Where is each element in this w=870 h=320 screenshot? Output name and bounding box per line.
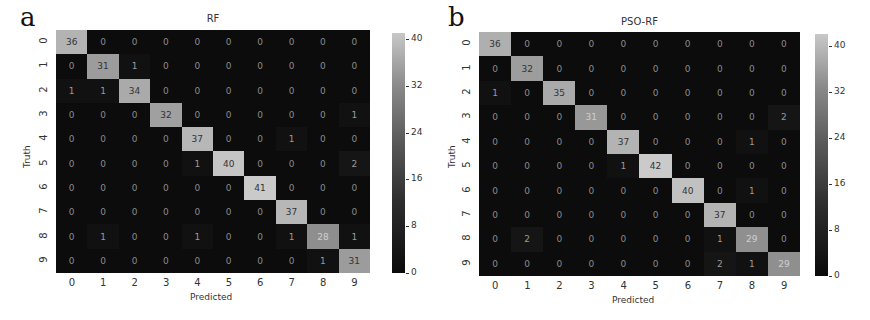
y-tick-label: 2	[461, 88, 472, 94]
matrix-cell: 0	[575, 32, 607, 56]
matrix-cell: 0	[639, 203, 671, 227]
matrix-cell: 0	[511, 130, 543, 154]
matrix-cell: 0	[479, 178, 511, 202]
x-tick-label: 3	[588, 280, 594, 291]
x-tick-label: 0	[492, 280, 498, 291]
matrix-cell: 0	[607, 227, 639, 251]
matrix-cell: 0	[736, 105, 768, 129]
x-tick-label: 5	[653, 280, 659, 291]
matrix-cell: 0	[543, 32, 575, 56]
y-tick-label: 3	[461, 113, 472, 119]
matrix-cell: 0	[543, 227, 575, 251]
colorbar-pso-rf	[815, 34, 828, 276]
matrix-cell: 0	[607, 32, 639, 56]
matrix-cell: 0	[479, 56, 511, 80]
matrix-cell: 29	[768, 252, 800, 276]
y-tick-label: 8	[461, 235, 472, 241]
matrix-cell: 0	[543, 56, 575, 80]
matrix-cell: 0	[575, 154, 607, 178]
matrix-cell: 0	[704, 130, 736, 154]
y-tick-label: 0	[461, 40, 472, 46]
matrix-cell: 0	[575, 203, 607, 227]
y-axis-label-pso-rf: Truth	[447, 145, 457, 168]
matrix-cell: 0	[511, 32, 543, 56]
matrix-cell: 0	[607, 178, 639, 202]
y-tick-label: 1	[461, 64, 472, 70]
matrix-cell: 0	[704, 32, 736, 56]
matrix-cell: 0	[768, 154, 800, 178]
matrix-cell: 2	[768, 105, 800, 129]
matrix-cell: 0	[704, 105, 736, 129]
matrix-cell: 0	[736, 32, 768, 56]
matrix-cell: 0	[543, 130, 575, 154]
matrix-cell: 0	[479, 252, 511, 276]
matrix-cell: 0	[768, 56, 800, 80]
matrix-cell: 1	[736, 252, 768, 276]
matrix-cell: 0	[639, 32, 671, 56]
colorbar-tick-label: 16	[834, 178, 845, 188]
matrix-cell: 0	[639, 252, 671, 276]
confusion-matrix-pso-rf: 3600000000003200000000103500000000003100…	[479, 32, 800, 276]
matrix-cell: 0	[736, 81, 768, 105]
matrix-cell: 0	[768, 178, 800, 202]
matrix-cell: 0	[479, 227, 511, 251]
y-tick-label: 7	[461, 210, 472, 216]
matrix-cell: 0	[736, 203, 768, 227]
matrix-cell: 0	[639, 56, 671, 80]
matrix-cell: 0	[672, 203, 704, 227]
x-tick-label: 7	[717, 280, 723, 291]
matrix-cell: 0	[575, 252, 607, 276]
matrix-cell: 0	[575, 81, 607, 105]
panel-letter-b: b	[448, 2, 465, 32]
x-tick-label: 8	[749, 280, 755, 291]
matrix-cell: 0	[672, 32, 704, 56]
colorbar-tick-label: 40	[834, 40, 845, 50]
matrix-cell: 0	[607, 203, 639, 227]
chart-title-pso-rf: PSO-RF	[479, 16, 800, 27]
matrix-cell: 0	[543, 154, 575, 178]
matrix-cell: 0	[479, 130, 511, 154]
colorbar-tick-label: 24	[834, 132, 845, 142]
matrix-cell: 35	[543, 81, 575, 105]
matrix-cell: 0	[639, 105, 671, 129]
matrix-cell: 0	[479, 105, 511, 129]
matrix-cell: 1	[736, 130, 768, 154]
y-tick-label: 9	[461, 259, 472, 265]
x-tick-label: 4	[620, 280, 626, 291]
matrix-cell: 0	[768, 203, 800, 227]
y-tick-label: 6	[461, 186, 472, 192]
matrix-cell: 0	[704, 154, 736, 178]
matrix-cell: 1	[607, 154, 639, 178]
matrix-cell: 0	[575, 227, 607, 251]
x-tick-label: 1	[524, 280, 530, 291]
matrix-cell: 0	[736, 56, 768, 80]
matrix-cell: 37	[704, 203, 736, 227]
matrix-cell: 0	[768, 130, 800, 154]
x-tick-label: 9	[781, 280, 787, 291]
matrix-cell: 0	[511, 252, 543, 276]
matrix-cell: 0	[672, 56, 704, 80]
matrix-cell: 0	[672, 130, 704, 154]
matrix-cell: 0	[768, 32, 800, 56]
matrix-cell: 0	[672, 252, 704, 276]
colorbar-tick-label: 0	[834, 270, 840, 280]
matrix-cell: 0	[543, 178, 575, 202]
matrix-cell: 0	[768, 227, 800, 251]
matrix-cell: 0	[639, 81, 671, 105]
matrix-cell: 32	[511, 56, 543, 80]
matrix-cell: 0	[639, 130, 671, 154]
x-axis-label-pso-rf: Predicted	[612, 295, 654, 305]
colorbar-tick-label: 32	[834, 86, 845, 96]
x-tick-label: 2	[556, 280, 562, 291]
matrix-cell: 0	[704, 178, 736, 202]
matrix-cell: 0	[704, 56, 736, 80]
matrix-cell: 0	[607, 81, 639, 105]
matrix-cell: 31	[575, 105, 607, 129]
panel-b: b PSO-RF 3600000000003200000000103500000…	[0, 0, 870, 320]
matrix-cell: 0	[607, 56, 639, 80]
matrix-cell: 0	[736, 154, 768, 178]
matrix-cell: 0	[704, 81, 736, 105]
matrix-cell: 29	[736, 227, 768, 251]
matrix-cell: 0	[511, 154, 543, 178]
matrix-cell: 0	[672, 81, 704, 105]
